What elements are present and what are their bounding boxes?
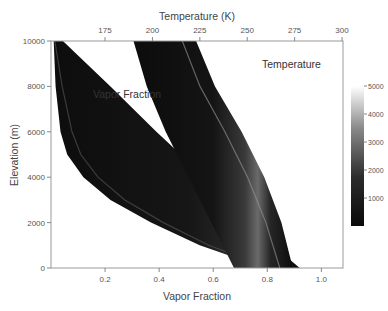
x-tick-label: 0.4 [154,275,166,284]
y-tick-label: 4000 [27,173,45,182]
x-axis-top: 175200225250275300 [98,26,349,41]
x-axis-bottom: 0.20.40.60.81.0 [100,268,328,284]
y-axis-title: Elevation (m) [8,124,20,186]
top-tick-label: 250 [241,26,255,35]
colorbar-tick-label: 4000 [368,111,384,118]
colorbar-tick-label: 3000 [368,139,384,146]
x-tick-label: 0.6 [208,275,220,284]
top-axis-title: Temperature (K) [159,10,235,22]
y-tick-label: 0 [41,264,46,273]
bands-layer [54,41,300,268]
x-tick-label: 0.2 [100,275,112,284]
colorbar-ticks: 10002000300040005000 [364,83,384,202]
y-axis: 0200040006000800010000 [23,37,51,273]
x-tick-label: 0.8 [262,275,274,284]
colorbar-tick-label: 1000 [368,195,384,202]
y-tick-label: 6000 [27,128,45,137]
colorbar-tick-label: 2000 [368,167,384,174]
top-tick-label: 200 [146,26,160,35]
chart: 0200040006000800010000 0.20.40.60.81.0 1… [0,0,388,311]
top-tick-label: 300 [335,26,349,35]
top-tick-label: 225 [193,26,207,35]
top-tick-label: 275 [288,26,302,35]
top-tick-label: 175 [98,26,112,35]
y-tick-label: 8000 [27,82,45,91]
x-tick-label: 1.0 [316,275,328,284]
x-axis-title: Vapor Fraction [163,290,231,302]
colorbar-tick-label: 5000 [368,83,384,90]
annotation-temperature: Temperature [262,58,321,70]
y-tick-label: 2000 [27,219,45,228]
colorbar [351,86,364,226]
annotation-vapor-fraction: Vapor Fraction [93,88,161,100]
y-tick-label: 10000 [23,37,46,46]
